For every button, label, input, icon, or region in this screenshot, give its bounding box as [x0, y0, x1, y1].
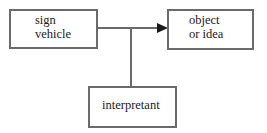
sign-vehicle-label-line1: sign — [35, 14, 56, 27]
sign-vehicle-label-line2: vehicle — [35, 28, 71, 41]
sign-vehicle-box: sign vehicle — [9, 9, 98, 49]
object-box: object or idea — [167, 9, 254, 50]
object-label-line2: or idea — [189, 28, 223, 41]
object-label-line1: object — [189, 14, 220, 27]
interpretant-label: interpretant — [102, 99, 160, 112]
interpretant-box: interpretant — [88, 86, 177, 128]
